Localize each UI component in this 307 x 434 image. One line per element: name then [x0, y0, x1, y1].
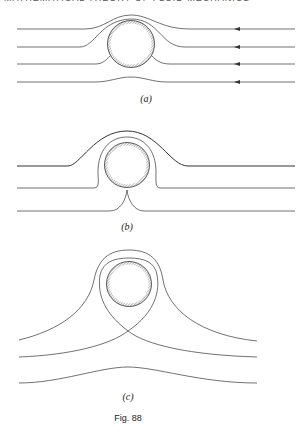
streamline-b1	[17, 131, 295, 166]
cylinder-a	[109, 22, 153, 66]
flow-arrows	[234, 27, 240, 84]
cylinder-c	[108, 263, 150, 305]
panel-label-c: (c)	[122, 391, 133, 402]
streamline-a2	[17, 19, 295, 47]
figure-caption: Fig. 88	[114, 413, 142, 423]
arrow-icon	[234, 80, 240, 84]
arrow-icon	[234, 27, 240, 31]
streamline-a3	[17, 56, 295, 64]
streamline-c3	[19, 367, 257, 383]
figure-88	[0, 0, 307, 434]
panel-b	[17, 131, 295, 211]
panel-label-b: (b)	[121, 221, 133, 232]
streamline-b3	[17, 190, 295, 211]
streamline-a4	[17, 77, 295, 82]
arrow-icon	[234, 45, 240, 49]
arrow-icon	[234, 62, 240, 66]
cylinder-b	[106, 144, 148, 186]
panel-c	[19, 250, 257, 383]
streamline-a1	[17, 15, 295, 29]
panel-a	[17, 15, 295, 84]
streamline-b2	[17, 137, 295, 188]
panel-label-a: (a)	[140, 93, 152, 104]
